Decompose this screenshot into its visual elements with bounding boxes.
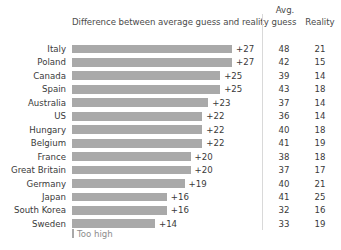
country-label: Sweden: [0, 219, 66, 229]
too-high-swatch-icon: [72, 229, 74, 239]
avg-guess-value: 40: [266, 125, 302, 135]
difference-bar: [72, 85, 220, 94]
reality-value: 18: [303, 84, 337, 94]
difference-bar: [72, 139, 202, 148]
country-label: Spain: [0, 84, 66, 94]
avg-guess-value: 37: [266, 165, 302, 175]
difference-value: +27: [236, 44, 254, 54]
reality-value: 15: [303, 57, 337, 67]
difference-bar: [72, 179, 185, 188]
difference-value: +16: [171, 205, 189, 215]
difference-value: +19: [189, 179, 207, 189]
country-label: Belgium: [0, 138, 66, 148]
table-row: Canada+253914: [0, 69, 341, 82]
country-label: Australia: [0, 98, 66, 108]
avg-guess-header-line2: guess: [266, 17, 302, 27]
avg-guess-value: 43: [266, 84, 302, 94]
table-row: Italy+274821: [0, 43, 341, 56]
avg-guess-value: 33: [266, 219, 302, 229]
bar-column-header: Difference between average guess and rea…: [72, 17, 269, 27]
avg-guess-header-line1: Avg.: [268, 5, 302, 15]
difference-bar: [72, 219, 155, 228]
difference-bar: [72, 206, 167, 215]
difference-value: +25: [224, 71, 242, 81]
difference-value: +22: [206, 125, 224, 135]
difference-value: +20: [195, 165, 213, 175]
reality-value: 19: [303, 219, 337, 229]
avg-guess-value: 37: [266, 98, 302, 108]
avg-guess-value: 38: [266, 152, 302, 162]
reality-value: 16: [303, 205, 337, 215]
difference-bar: [72, 193, 167, 202]
country-label: US: [0, 111, 66, 121]
country-label: Poland: [0, 57, 66, 67]
difference-bar: [72, 45, 232, 54]
country-label: Canada: [0, 71, 66, 81]
difference-value: +20: [195, 152, 213, 162]
difference-bar: [72, 71, 220, 80]
reality-value: 14: [303, 111, 337, 121]
table-row: Spain+254318: [0, 83, 341, 96]
avg-guess-value: 41: [266, 192, 302, 202]
table-row: South Korea+163216: [0, 204, 341, 217]
difference-value: +22: [206, 138, 224, 148]
table-row: US+223614: [0, 110, 341, 123]
difference-bar: [72, 152, 191, 161]
reality-value: 14: [303, 98, 337, 108]
difference-value: +27: [236, 57, 254, 67]
reality-value: 21: [303, 44, 337, 54]
difference-value: +14: [159, 219, 177, 229]
reality-value: 17: [303, 165, 337, 175]
table-row: Australia+233714: [0, 96, 341, 109]
difference-bar: [72, 58, 232, 67]
difference-value: +16: [171, 192, 189, 202]
table-row: Germany+194021: [0, 177, 341, 190]
difference-bar: [72, 125, 202, 134]
country-label: Italy: [0, 44, 66, 54]
reality-header: Reality: [303, 17, 337, 27]
avg-guess-value: 39: [266, 71, 302, 81]
country-label: France: [0, 152, 66, 162]
table-row: Belgium+224119: [0, 137, 341, 150]
country-label: Great Britain: [0, 165, 66, 175]
table-row: Sweden+143319: [0, 217, 341, 230]
reality-value: 14: [303, 71, 337, 81]
table-row: Poland+274215: [0, 56, 341, 69]
table-row: Great Britain+203717: [0, 164, 341, 177]
avg-guess-value: 42: [266, 57, 302, 67]
reality-value: 21: [303, 179, 337, 189]
difference-bar: [72, 166, 191, 175]
avg-guess-value: 40: [266, 179, 302, 189]
chart-container: Difference between average guess and rea…: [0, 0, 341, 250]
country-label: Germany: [0, 179, 66, 189]
avg-guess-value: 36: [266, 111, 302, 121]
table-row: Hungary+224018: [0, 123, 341, 136]
reality-value: 18: [303, 125, 337, 135]
reality-value: 19: [303, 138, 337, 148]
country-label: Hungary: [0, 125, 66, 135]
avg-guess-value: 48: [266, 44, 302, 54]
country-label: Japan: [0, 192, 66, 202]
country-label: South Korea: [0, 205, 66, 215]
difference-value: +22: [206, 111, 224, 121]
difference-value: +25: [224, 84, 242, 94]
table-row: Japan+164125: [0, 190, 341, 203]
difference-bar: [72, 98, 208, 107]
difference-bar: [72, 112, 202, 121]
avg-guess-value: 32: [266, 205, 302, 215]
avg-guess-value: 41: [266, 138, 302, 148]
reality-value: 18: [303, 152, 337, 162]
reality-value: 25: [303, 192, 337, 202]
legend-label: Too high: [77, 229, 113, 239]
difference-value: +23: [212, 98, 230, 108]
table-row: France+203818: [0, 150, 341, 163]
